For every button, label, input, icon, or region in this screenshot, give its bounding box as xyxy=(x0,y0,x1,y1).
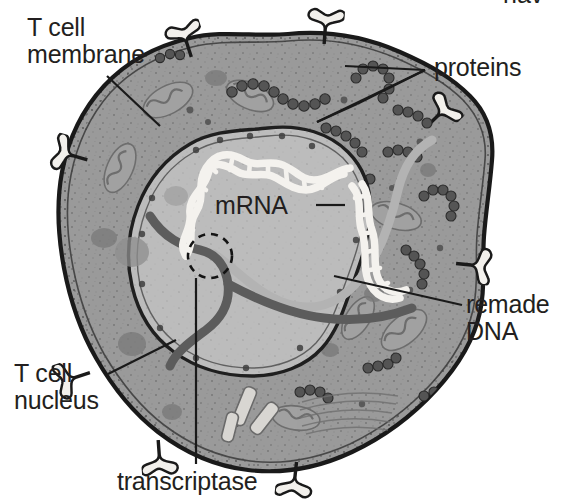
label-mrna: mRNA xyxy=(215,192,288,219)
figure-canvas: T cell membrane proteins mRNA remade DNA… xyxy=(0,0,572,501)
label-remade-dna: remade DNA xyxy=(466,291,550,345)
label-transcriptase: transcriptase xyxy=(117,468,258,495)
label-t-cell-nucleus: T cell nucleus xyxy=(14,360,99,414)
label-t-cell-membrane: T cell membrane xyxy=(27,14,145,68)
label-clipped-top: hav xyxy=(503,0,543,8)
label-proteins: proteins xyxy=(434,54,521,81)
